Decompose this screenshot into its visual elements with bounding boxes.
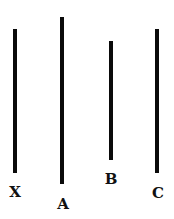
line-b: [109, 41, 113, 160]
label-c: C: [148, 186, 168, 201]
line-x: [13, 29, 17, 173]
line-c: [155, 29, 159, 173]
label-x: X: [5, 185, 25, 200]
label-b: B: [101, 172, 121, 187]
line-a: [60, 17, 64, 184]
label-a: A: [53, 197, 73, 212]
